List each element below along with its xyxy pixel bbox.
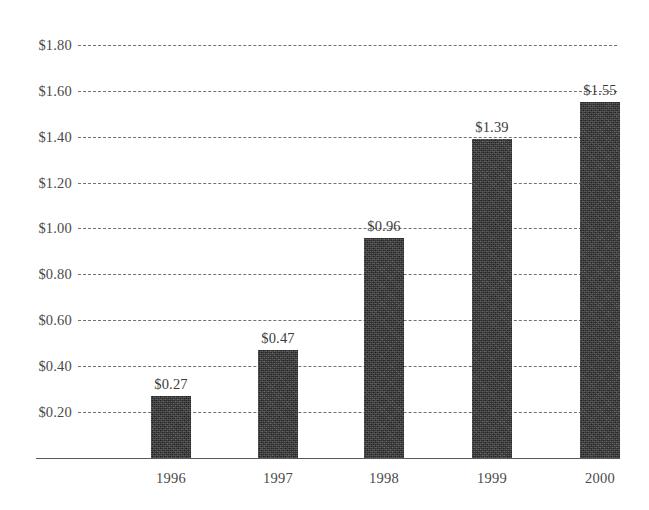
bar[interactable]: [472, 139, 512, 458]
y-axis-tick-label: $1.80: [6, 37, 72, 54]
gridline: [78, 45, 617, 46]
x-axis-tick-label: 1998: [344, 470, 424, 487]
y-axis-label-group: $1.80 $1.60 $1.40 $1.20 $1.00 $0.80 $0.6…: [0, 0, 72, 510]
gridline: [78, 320, 617, 321]
bar[interactable]: [580, 102, 620, 458]
y-axis-tick-label: $1.00: [6, 220, 72, 237]
gridline: [78, 228, 617, 229]
y-axis-tick-label: $0.20: [6, 404, 72, 421]
x-axis-tick-label: 2000: [560, 470, 640, 487]
y-axis-tick-label: $1.40: [6, 129, 72, 146]
y-axis-tick-label: $1.60: [6, 83, 72, 100]
bar-value-label: $0.47: [261, 330, 295, 347]
x-axis-tick-label: 1997: [238, 470, 318, 487]
bar[interactable]: [258, 350, 298, 458]
gridline: [78, 91, 617, 92]
gridline: [78, 183, 617, 184]
x-axis-line: [36, 458, 620, 459]
x-axis-tick-label: 1999: [452, 470, 532, 487]
gridline: [78, 366, 617, 367]
y-axis-tick-label: $0.80: [6, 266, 72, 283]
bar-chart-figure: $1.80 $1.60 $1.40 $1.20 $1.00 $0.80 $0.6…: [0, 0, 649, 510]
bar-value-label: $0.96: [367, 218, 401, 235]
y-axis-tick-label: $0.40: [6, 358, 72, 375]
bar-value-label: $1.55: [583, 82, 617, 99]
bar-value-label: $0.27: [154, 376, 188, 393]
gridline: [78, 137, 617, 138]
x-axis-tick-label: 1996: [131, 470, 211, 487]
bar[interactable]: [151, 396, 191, 458]
bar-value-label: $1.39: [475, 119, 509, 136]
plot-area: $0.27 $0.47 $0.96 $1.39 $1.55: [78, 45, 617, 458]
y-axis-tick-label: $0.60: [6, 312, 72, 329]
gridline: [78, 274, 617, 275]
bar[interactable]: [364, 238, 404, 458]
y-axis-tick-label: $1.20: [6, 175, 72, 192]
